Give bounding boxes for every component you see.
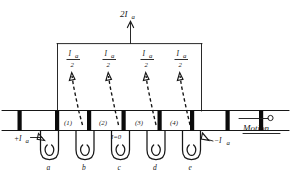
slot-conductor-2 — [55, 111, 59, 131]
coil-number-3: (3) — [135, 119, 144, 127]
branch-4-numerator: I — [176, 49, 180, 58]
branch-2-numerator: I — [104, 49, 108, 58]
current-arrow-3 — [143, 73, 156, 125]
coil-number-2: (2) — [99, 119, 108, 127]
diagram-canvas: 2I a I a 2 I a 2 I a 2 — [0, 0, 291, 174]
slot-conductor-6 — [190, 111, 194, 131]
branch-1-denominator: 2 — [71, 61, 75, 68]
coil-c-loop — [116, 145, 125, 155]
coil-letter-d: d — [153, 163, 157, 172]
branch-4-numerator-sub: a — [183, 52, 187, 59]
coil-d-loop — [152, 145, 161, 155]
output-current-subscript: a — [227, 139, 231, 146]
coil-a-loop — [45, 145, 54, 155]
branch-current-labels: I a 2 I a 2 I a 2 I a 2 — [67, 49, 189, 68]
coil-e: e — [183, 131, 201, 172]
current-arrow-2 — [106, 73, 119, 125]
input-current-subscript: a — [26, 137, 30, 144]
current-arrow-1-shaft — [72, 76, 83, 125]
coil-letter-c: c — [118, 163, 122, 172]
branch-1-numerator-sub: a — [75, 52, 79, 59]
top-terminal-label: 2I — [120, 9, 129, 19]
coil-e-loop — [187, 145, 196, 155]
branch-1-numerator: I — [68, 49, 72, 58]
branch-3-denominator: 2 — [145, 61, 149, 68]
zero-current-label: I=0 — [110, 133, 122, 140]
coil-number-1: (1) — [64, 119, 73, 127]
coil-d: d — [147, 131, 165, 172]
branch-3-numerator-sub: a — [149, 52, 153, 59]
branch-label-4: I a 2 — [175, 49, 189, 68]
zero-current-group: I=0 — [110, 133, 122, 140]
output-current-label: −I — [214, 136, 222, 145]
branch-2-denominator: 2 — [107, 61, 111, 68]
coil-b: b — [76, 131, 94, 172]
branch-3-numerator: I — [142, 49, 146, 58]
current-arrow-1 — [69, 73, 82, 125]
coil-letter-a: a — [47, 163, 51, 172]
branch-label-2: I a 2 — [103, 49, 117, 68]
armature-winding-diagram: 2I a I a 2 I a 2 I a 2 — [0, 0, 291, 174]
branch-4-denominator: 2 — [179, 61, 183, 68]
top-terminal-group: 2I a — [120, 9, 136, 44]
coil-a: a — [41, 131, 59, 172]
top-terminal-subscript: a — [132, 13, 136, 20]
current-arrow-2-shaft — [109, 76, 119, 125]
slot-conductor-7 — [226, 111, 230, 131]
coil-letter-b: b — [82, 163, 86, 172]
branch-2-numerator-sub: a — [111, 52, 115, 59]
input-current-label: +I — [14, 134, 22, 143]
current-arrow-4 — [177, 73, 190, 125]
current-arrow-3-shaft — [146, 76, 156, 125]
slot-conductor-1 — [18, 111, 22, 131]
slot-conductor-4 — [122, 111, 126, 131]
output-current-group: −I a — [201, 133, 230, 146]
coil-b-loop — [81, 145, 90, 155]
motion-arrow-head — [268, 115, 273, 120]
slot-conductor-5 — [158, 111, 162, 131]
branch-label-1: I a 2 — [67, 49, 81, 68]
slot-conductor-3 — [87, 111, 91, 131]
coil-number-4: (4) — [170, 119, 179, 127]
coil-letter-e: e — [189, 163, 193, 172]
motion-label: Motion — [242, 123, 269, 133]
branch-label-3: I a 2 — [141, 49, 155, 68]
current-arrow-4-shaft — [180, 76, 190, 125]
